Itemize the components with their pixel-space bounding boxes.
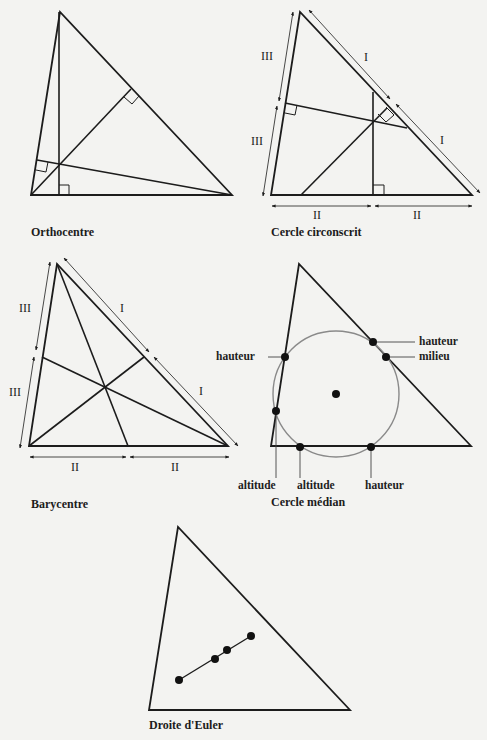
bisector-ac xyxy=(301,108,387,195)
caption-orthocentre: Orthocentre xyxy=(31,225,94,240)
mark-ii: II xyxy=(71,460,79,475)
mark-i: I xyxy=(440,133,444,148)
caption-barycentre: Barycentre xyxy=(31,497,88,512)
label-altitude-2: altitude xyxy=(297,479,335,491)
point-milieu xyxy=(382,353,390,361)
mark-iii: III xyxy=(251,134,263,149)
label-altitude-1: altitude xyxy=(238,479,276,491)
median-from-a xyxy=(57,264,128,446)
caption-droite-euler: Droite d'Euler xyxy=(149,718,223,733)
label-hauteur-right: hauteur xyxy=(419,335,458,347)
mark-i: I xyxy=(199,384,203,399)
geometry-diagram xyxy=(0,0,487,740)
caption-cercle-circonscrit: Cercle circonscrit xyxy=(271,225,362,240)
median-from-c xyxy=(42,357,228,446)
label-milieu: milieu xyxy=(419,350,450,362)
point-hauteur-left xyxy=(281,353,289,361)
centroid-figure xyxy=(20,258,238,457)
mark-i: I xyxy=(364,50,368,65)
circumcircle-figure xyxy=(263,10,480,206)
mark-i: I xyxy=(120,301,124,316)
point-center xyxy=(332,390,340,398)
triangle xyxy=(271,12,472,195)
right-angle-mark xyxy=(285,105,297,115)
mark-ii: II xyxy=(313,208,321,223)
point-altitude-2 xyxy=(296,443,304,451)
right-angle-mark xyxy=(59,185,69,195)
right-angle-mark xyxy=(36,162,48,172)
euler-line-figure xyxy=(149,527,350,710)
mark-ii: II xyxy=(413,208,421,223)
label-hauteur-left: hauteur xyxy=(216,350,255,362)
label-hauteur-bottom: hauteur xyxy=(365,479,404,491)
nine-point-circle-figure xyxy=(268,264,471,478)
mark-iii: III xyxy=(9,385,21,400)
right-angle-mark xyxy=(124,96,139,104)
point-hauteur-right xyxy=(369,338,377,346)
mark-iii: III xyxy=(261,49,273,64)
median-from-b xyxy=(29,357,144,446)
point-hauteur-bottom xyxy=(367,443,375,451)
mark-iii: III xyxy=(19,301,31,316)
right-angle-mark xyxy=(373,185,384,195)
altitude-from-c xyxy=(37,160,232,195)
point-altitude-1 xyxy=(272,407,280,415)
mark-ii: II xyxy=(171,460,179,475)
caption-cercle-median: Cercle médian xyxy=(271,495,345,510)
orthocentre-figure xyxy=(31,12,232,195)
triangle xyxy=(29,264,228,446)
